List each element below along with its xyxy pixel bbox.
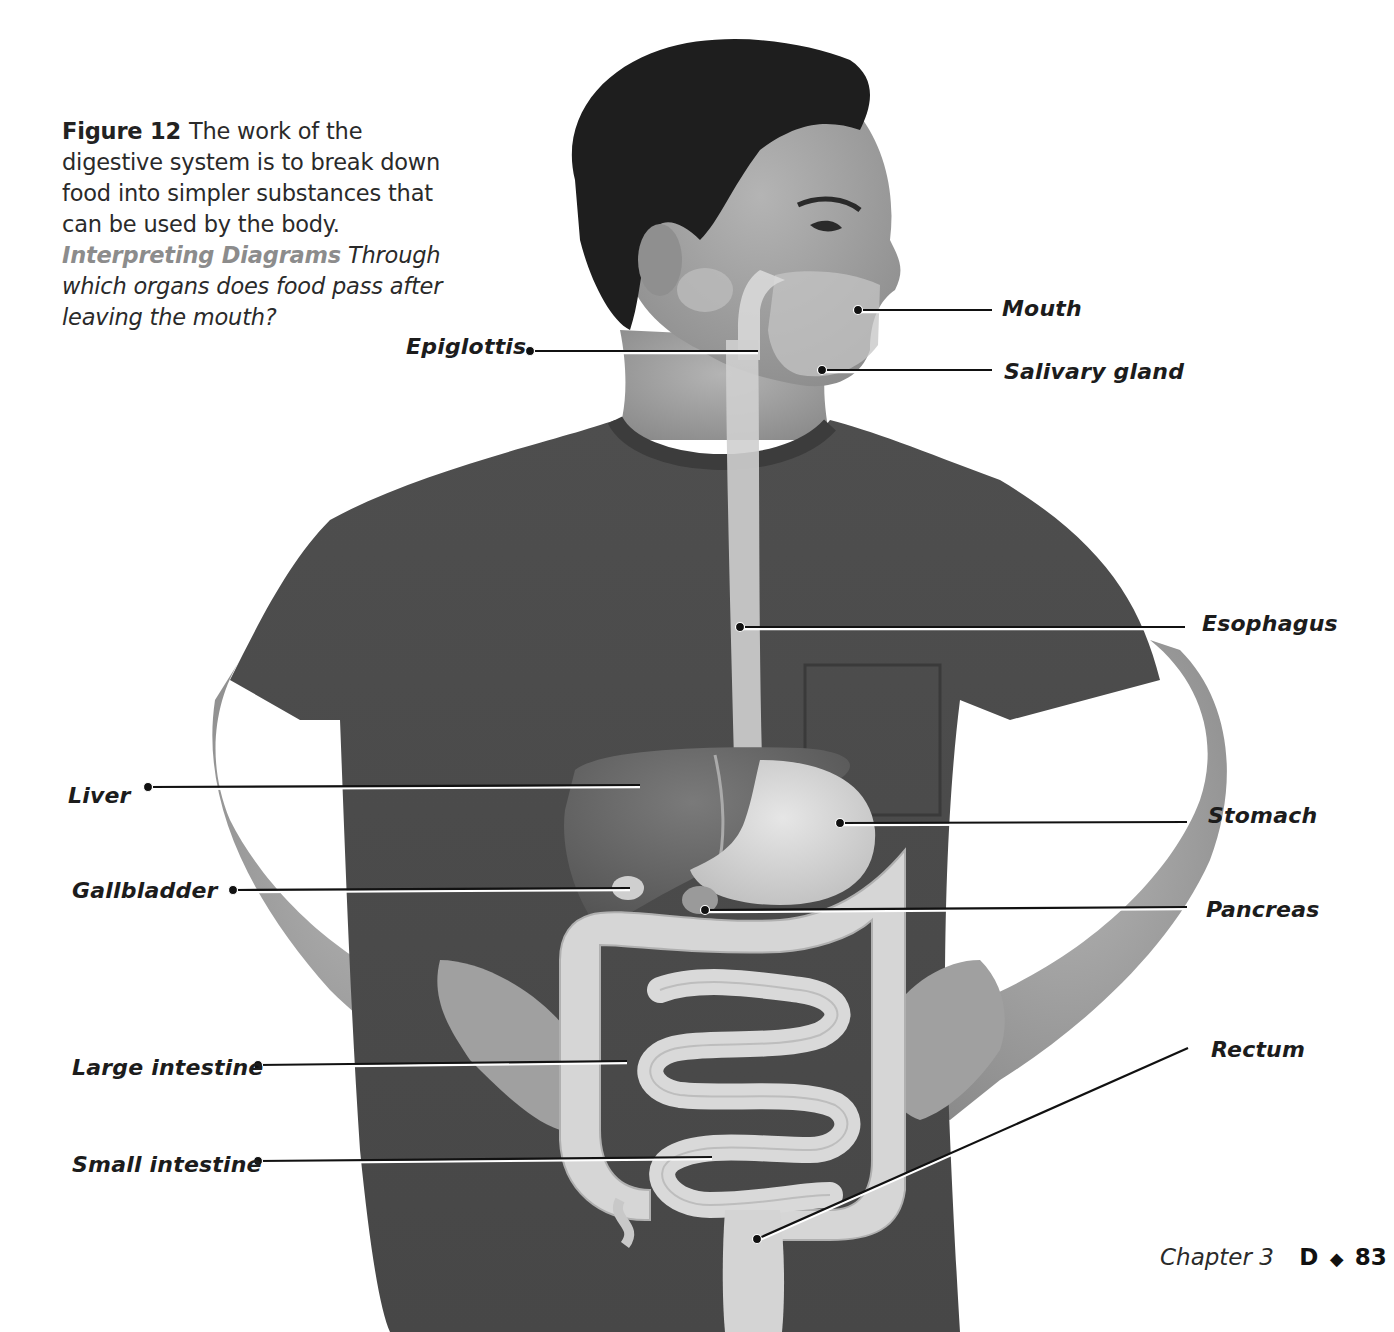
leader-line-halo-stomach	[840, 824, 1187, 825]
page-footer: Chapter 3 D ◆ 83	[1160, 1244, 1387, 1270]
figure-caption: Figure 12The work of the digestive syste…	[62, 116, 452, 333]
prompt-heading: Interpreting Diagrams	[62, 242, 341, 268]
label-gallbladder: Gallbladder	[72, 878, 218, 903]
label-small-intestine: Small intestine	[72, 1152, 262, 1177]
rectum-overlay	[723, 1210, 784, 1332]
pin-dot-icon	[854, 306, 863, 315]
pin-dot-icon	[701, 906, 710, 915]
pin-dot-icon	[836, 819, 845, 828]
pin-dot-icon	[736, 623, 745, 632]
pin-dot-icon	[144, 783, 153, 792]
diamond-separator-icon: ◆	[1330, 1248, 1344, 1269]
label-stomach: Stomach	[1208, 803, 1317, 828]
chapter-label: Chapter 3	[1160, 1244, 1274, 1270]
label-epiglottis: Epiglottis	[406, 334, 526, 359]
pin-dot-icon	[818, 366, 827, 375]
label-mouth: Mouth	[1002, 296, 1082, 321]
pin-dot-icon	[526, 347, 535, 356]
pin-dot-icon	[229, 886, 238, 895]
label-liver: Liver	[68, 783, 131, 808]
page-number: 83	[1355, 1244, 1387, 1270]
salivary-gland-overlay	[677, 268, 733, 312]
leader-line-stomach	[840, 822, 1187, 823]
label-salivary-gland: Salivary gland	[1004, 359, 1184, 384]
label-rectum: Rectum	[1211, 1037, 1305, 1062]
book-letter: D	[1299, 1244, 1318, 1270]
label-pancreas: Pancreas	[1206, 897, 1320, 922]
ear	[638, 224, 682, 296]
label-large-intestine: Large intestine	[72, 1055, 263, 1080]
label-esophagus: Esophagus	[1202, 611, 1338, 636]
pin-dot-icon	[753, 1235, 762, 1244]
figure-number: Figure 12	[62, 118, 181, 144]
